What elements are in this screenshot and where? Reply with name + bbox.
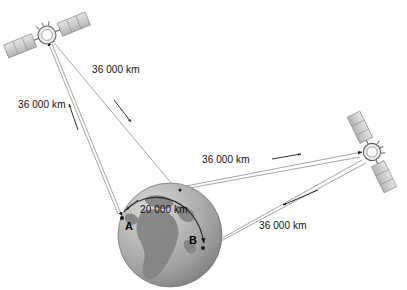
label-surface-arc-distance: 20 000 km xyxy=(140,205,188,215)
station-label-a: A xyxy=(125,221,133,232)
label-distance-sat1-downlink: 36 000 km xyxy=(92,65,140,75)
direction-arrow-a-up xyxy=(69,104,78,130)
direction-arrow-sat1-down xyxy=(114,100,131,122)
direction-arrow-from-sat2 xyxy=(283,190,318,205)
earth-globe xyxy=(118,183,222,287)
link-sat2-to-b xyxy=(208,160,362,246)
link-b-to-sat2 xyxy=(206,163,366,249)
label-distance-sat2-to-b: 36 000 km xyxy=(259,221,307,231)
earth-relay-point-dot xyxy=(178,188,181,191)
diagram-vector-layer xyxy=(0,0,407,290)
station-b-dot xyxy=(201,246,205,250)
station-a-dot xyxy=(120,216,124,220)
label-distance-a-uplink: 36 000 km xyxy=(18,100,66,110)
diagram-canvas: 36 000 km 36 000 km 36 000 km 36 000 km … xyxy=(0,0,407,290)
station-label-b: B xyxy=(189,235,197,246)
satellite-upper-left xyxy=(1,6,91,59)
direction-arrow-to-sat2 xyxy=(272,154,301,159)
label-distance-earth-to-sat2: 36 000 km xyxy=(202,155,250,165)
satellite-right xyxy=(346,109,402,194)
